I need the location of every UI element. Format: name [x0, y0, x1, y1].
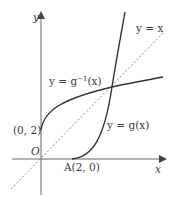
point-label-y-intercept: (0, 2) [13, 124, 41, 136]
x-axis-label: x [155, 163, 161, 175]
graph-diagram: y x O (0, 2) A(2, 0) y = x y = g(x) y = … [0, 0, 173, 205]
identity-label: y = x [135, 22, 163, 34]
point-label-A: A(2, 0) [63, 161, 100, 173]
svg-text:y = g−1(x): y = g−1(x) [48, 75, 102, 87]
y-axis-label: y [32, 11, 40, 23]
curve-g-label: y = g(x) [106, 119, 149, 131]
curve-g-inverse-label: y = g−1(x) [48, 75, 102, 87]
origin-label: O [31, 145, 40, 157]
